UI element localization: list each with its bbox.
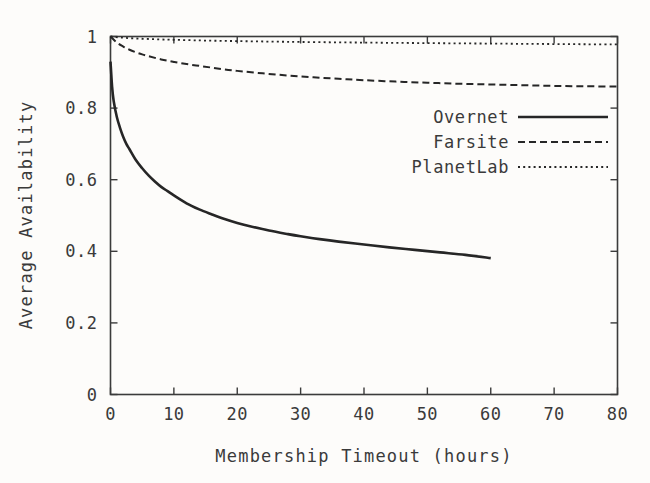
y-tick-label: 0.6 xyxy=(65,170,97,190)
y-tick-label: 0.2 xyxy=(65,313,97,333)
legend-label-overnet: Overnet xyxy=(433,107,509,127)
legend-label-farsite: Farsite xyxy=(433,132,509,152)
chart-figure: 01020304050607080 00.20.40.60.81 Members… xyxy=(0,0,650,483)
x-axis-ticks xyxy=(111,37,618,395)
y-axis-ticks xyxy=(111,37,618,395)
y-tick-label: 0.8 xyxy=(65,98,97,118)
x-tick-label: 30 xyxy=(290,404,311,424)
availability-line-chart: 01020304050607080 00.20.40.60.81 Members… xyxy=(0,0,650,483)
x-axis-title: Membership Timeout (hours) xyxy=(215,446,512,466)
x-axis-tick-labels: 01020304050607080 xyxy=(105,404,628,424)
y-axis-title: Average Availability xyxy=(16,101,36,330)
y-tick-label: 1 xyxy=(87,27,98,47)
x-tick-label: 40 xyxy=(353,404,374,424)
y-tick-label: 0.4 xyxy=(65,241,97,261)
y-tick-label: 0 xyxy=(87,385,98,405)
x-tick-label: 0 xyxy=(105,404,116,424)
x-tick-label: 20 xyxy=(227,404,248,424)
data-series-group xyxy=(111,37,618,259)
x-tick-label: 50 xyxy=(417,404,438,424)
y-axis-tick-labels: 00.20.40.60.81 xyxy=(65,27,97,405)
legend-label-planetlab: PlanetLab xyxy=(411,157,509,177)
x-tick-label: 10 xyxy=(163,404,184,424)
plot-frame xyxy=(111,37,618,395)
x-tick-label: 70 xyxy=(543,404,564,424)
x-tick-label: 60 xyxy=(480,404,501,424)
series-line-farsite xyxy=(111,37,618,87)
legend: OvernetFarsitePlanetLab xyxy=(411,107,608,177)
x-tick-label: 80 xyxy=(607,404,628,424)
